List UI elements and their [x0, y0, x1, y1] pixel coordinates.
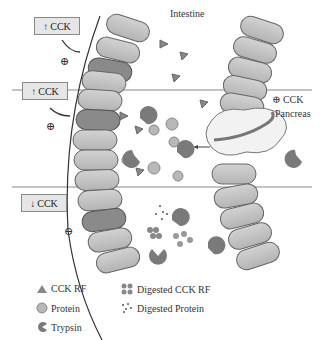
up-arrow-icon: ↑ [31, 86, 36, 97]
cck-increase-box-1: ↑ CCK [34, 17, 80, 35]
circle-icon [36, 302, 48, 314]
pancreas-cck-label: ⊕ CCK [272, 94, 303, 105]
dots-icon [120, 302, 134, 314]
legend-trypsin: Trypsin [36, 321, 82, 333]
cck-decrease-box: ↓ CCK [21, 194, 67, 212]
left-intestinal-wall [73, 12, 152, 275]
pacman-icon [36, 321, 48, 333]
legend-digested-protein: Digested Protein [120, 302, 204, 314]
digested-protein [155, 205, 168, 220]
stimulate-icon: ⊕ [60, 55, 69, 68]
down-arrow-icon: ↓ [30, 198, 35, 209]
legend-cck-rf: CCK RF [36, 283, 86, 294]
cck-increase-box-2: ↑ CCK [22, 82, 68, 100]
stimulate-icon: ⊕ [46, 120, 55, 133]
cluster-icon [120, 283, 134, 295]
digested-cck-rf [173, 231, 193, 247]
triangle-icon [36, 284, 48, 294]
digested-cck-rf [147, 227, 162, 239]
intestine-label: Intestine [170, 8, 204, 19]
pancreas-label: Pancreas [275, 108, 311, 119]
legend-digested-cck-rf: Digested CCK RF [120, 283, 210, 295]
inhibit-icon: ⊖ [64, 225, 73, 238]
up-arrow-icon: ↑ [43, 21, 48, 32]
legend-protein: Protein [36, 302, 80, 314]
protein-molecules [122, 118, 183, 181]
